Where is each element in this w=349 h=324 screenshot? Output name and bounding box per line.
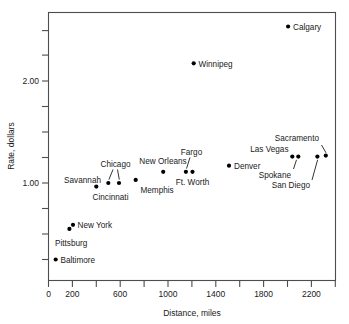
label-chicago: Chicago [100, 160, 130, 169]
point-winnipeg [192, 61, 196, 65]
label-calgary: Calgary [293, 23, 322, 32]
point-cincinnati [94, 185, 98, 189]
label-spokane: Spokane [259, 171, 292, 180]
point-lasvegas [296, 155, 300, 159]
x-tick-label-1800: 1800 [254, 289, 273, 299]
point-baltimore [54, 257, 58, 261]
x-tick-label-0: 0 [46, 289, 51, 299]
point-ftworth [190, 170, 194, 174]
x-axis-ticks [49, 281, 336, 288]
point-calgary [286, 24, 290, 28]
y-tick-label-1.00: 1.00 [22, 178, 39, 188]
scatter-chart: 2.00 1.00 Rate, dollars 0 200 600 1000 1… [0, 0, 349, 324]
label-savannah: Savannah [64, 176, 101, 185]
label-sandiego: San Diego [272, 181, 311, 190]
x-axis-title: Distance, miles [163, 308, 221, 318]
point-pittsburg [67, 227, 71, 231]
label-lasvegas: Las Vegas [250, 145, 288, 154]
point-spokane [290, 155, 294, 159]
leader-sacramento [322, 145, 327, 153]
point-chicago [117, 181, 121, 185]
leader-fargo [187, 158, 191, 169]
point-fargo [184, 170, 188, 174]
y-axis-title: Rate, dollars [6, 122, 16, 170]
label-fargo: Fargo [181, 148, 203, 157]
leader-chicago-b [118, 170, 120, 180]
label-memphis: Memphis [141, 186, 174, 195]
leader-chicago-a [109, 170, 113, 180]
label-ftworth: Ft. Worth [176, 178, 210, 187]
point-neworleans [161, 170, 165, 174]
point-savannah [106, 181, 110, 185]
label-newyork: New York [78, 221, 113, 230]
x-tick-label-1000: 1000 [159, 289, 178, 299]
leader-spokane [294, 160, 297, 169]
point-denver [227, 164, 231, 168]
label-neworleans: New Orleans [139, 157, 186, 166]
plot-frame [49, 13, 336, 281]
leader-sandiego [312, 160, 318, 180]
label-winnipeg: Winnipeg [199, 60, 234, 69]
x-tick-label-600: 600 [113, 289, 127, 299]
y-axis-ticks [42, 31, 49, 260]
label-sacramento: Sacramento [275, 134, 320, 143]
x-tick-label-2200: 2200 [302, 289, 321, 299]
point-labels: Baltimore Pittsburg New York Cincinnati … [55, 23, 322, 265]
label-pittsburg: Pittsburg [55, 239, 88, 248]
point-sandiego [315, 155, 319, 159]
label-baltimore: Baltimore [61, 256, 96, 265]
point-sacramento [324, 154, 328, 158]
point-newyork [71, 223, 75, 227]
x-tick-label-1400: 1400 [206, 289, 225, 299]
chart-canvas: 2.00 1.00 Rate, dollars 0 200 600 1000 1… [0, 0, 349, 324]
y-tick-label-2.00: 2.00 [22, 76, 39, 86]
label-cincinnati: Cincinnati [93, 193, 129, 202]
label-denver: Denver [234, 162, 261, 171]
point-memphis [134, 178, 138, 182]
x-tick-label-200: 200 [65, 289, 79, 299]
